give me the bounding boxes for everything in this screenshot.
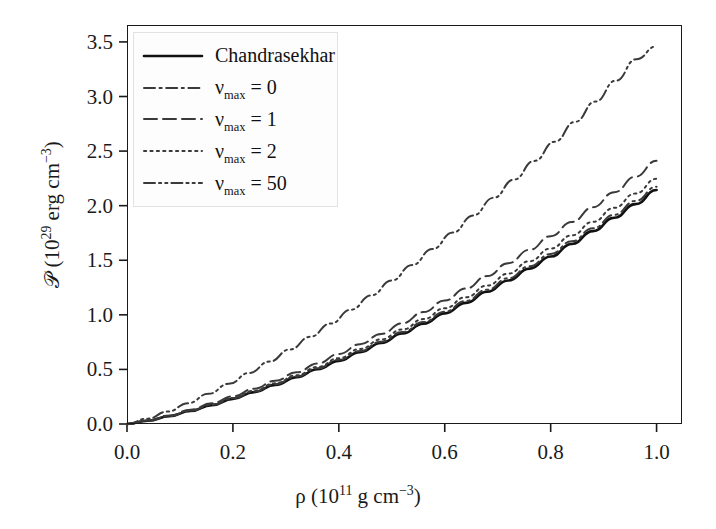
- legend-line-sample-icon: [142, 109, 204, 129]
- chart-legend: Chandrasekharνmax = 0νmax = 1νmax = 2νma…: [133, 32, 338, 207]
- legend-entry-3[interactable]: νmax = 2: [142, 136, 327, 167]
- chart-figure: 0.00.51.01.52.02.53.03.5 0.00.20.40.60.8…: [0, 0, 716, 529]
- legend-line-sample-icon: [142, 78, 204, 98]
- x-tick-label: 0.2: [220, 442, 246, 463]
- legend-entry-label: νmax = 1: [215, 108, 277, 131]
- x-axis-title: ρ (1011 g cm−3): [0, 484, 716, 509]
- x-tick-label: 1.0: [643, 442, 669, 463]
- legend-entry-1[interactable]: νmax = 0: [142, 72, 327, 103]
- legend-line-sample-icon: [142, 173, 204, 193]
- legend-line-sample-icon: [142, 46, 204, 66]
- legend-entry-label: νmax = 2: [215, 140, 277, 163]
- legend-entry-label: νmax = 50: [215, 172, 287, 195]
- legend-entry-0[interactable]: Chandrasekhar: [142, 40, 327, 71]
- x-tick-label: 0.0: [114, 442, 140, 463]
- y-axis-title: 𝒫 (1029 erg cm−3): [40, 15, 65, 415]
- legend-entry-2[interactable]: νmax = 1: [142, 104, 327, 135]
- legend-line-sample-icon: [142, 141, 204, 161]
- legend-entry-label: νmax = 0: [215, 76, 277, 99]
- legend-entry-label: Chandrasekhar: [215, 44, 335, 67]
- legend-entry-4[interactable]: νmax = 50: [142, 168, 327, 199]
- x-tick-label: 0.8: [538, 442, 564, 463]
- x-tick-label: 0.4: [326, 442, 352, 463]
- x-tick-label: 0.6: [432, 442, 458, 463]
- y-tick-label: 0.0: [37, 414, 113, 435]
